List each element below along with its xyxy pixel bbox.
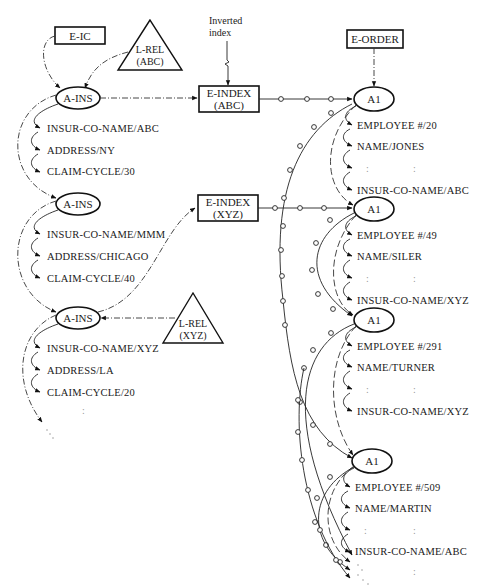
- emp-2-field-1: EMPLOYEE #/49: [357, 230, 437, 241]
- emp-1-ellipsis-a: :: [366, 163, 369, 174]
- emp-1-ellipsis-b: :: [413, 163, 416, 174]
- ins-3-field-3: CLAIM-CYCLE/20: [47, 387, 135, 398]
- l-rel-xyz-line1: L-REL: [179, 318, 207, 329]
- ins-record-3: A-INS INSUR-CO-NAME/XYZ ADDRESS/LA CLAIM…: [31, 307, 158, 416]
- entity-e-ic-label: E-IC: [69, 30, 90, 42]
- ins-node-2-label: A-INS: [63, 198, 92, 210]
- annotation-line1: Inverted: [209, 15, 242, 26]
- ins-2-field-3: CLAIM-CYCLE/40: [47, 273, 135, 284]
- employee-record-4: A1 EMPLOYEE #/509 NAME/MARTIN : : INSUR-…: [341, 449, 466, 577]
- emp-2-ellipsis-a: :: [366, 273, 369, 284]
- l-rel-abc-line2: (ABC): [136, 56, 163, 68]
- emp-3-ellipsis-a: :: [366, 384, 369, 395]
- l-rel-xyz-line2: (XYZ): [179, 330, 206, 342]
- employee-record-1: A1 EMPLOYEE #/20 NAME/JONES : : INSUR-CO…: [343, 87, 468, 196]
- e-order-label: E-ORDER: [351, 33, 399, 45]
- employee-node-2-label: A1: [367, 203, 380, 215]
- e-index-xyz-line1: E-INDEX: [206, 196, 251, 208]
- emp-3-field-2: NAME/TURNER: [357, 362, 435, 373]
- employee-node-4-label: A1: [365, 455, 378, 467]
- ins-record-1: A-INS INSUR-CO-NAME/ABC ADDRESS/NY CLAIM…: [31, 87, 158, 177]
- emp-1-field-2: NAME/JONES: [357, 141, 424, 152]
- employee-record-3: A1 EMPLOYEE #/291 NAME/TURNER : : INSUR-…: [343, 308, 468, 417]
- emp-1-field-1: EMPLOYEE #/20: [357, 120, 437, 131]
- ins-1-field-3: CLAIM-CYCLE/30: [47, 166, 135, 177]
- ins-1-field-1: INSUR-CO-NAME/ABC: [47, 123, 159, 134]
- l-rel-abc-line1: L-REL: [136, 44, 164, 55]
- e-index-abc-line2: (ABC): [214, 99, 244, 112]
- emp-4-ellipsis-a: :: [364, 525, 367, 536]
- ins-2-field-1: INSUR-CO-NAME/MMM: [47, 229, 166, 240]
- entity-e-order: E-ORDER: [347, 30, 403, 48]
- ins-3-field-1: INSUR-CO-NAME/XYZ: [47, 343, 159, 354]
- annotation-line2: index: [209, 27, 231, 38]
- employee-node-1-label: A1: [367, 93, 380, 105]
- e-index-abc-line1: E-INDEX: [207, 87, 252, 99]
- associative-structure-diagram: E-IC L-REL (ABC) A-INS INSUR-CO-NAME/ABC…: [0, 0, 484, 587]
- emp-4-field-1: EMPLOYEE #/509: [355, 482, 440, 493]
- ins-node-1-label: A-INS: [63, 92, 92, 104]
- emp-2-field-2: NAME/SILER: [357, 251, 422, 262]
- ins-1-field-2: ADDRESS/NY: [47, 145, 115, 156]
- employee-record-2: A1 EMPLOYEE #/49 NAME/SILER : : INSUR-CO…: [343, 197, 468, 306]
- ins-2-field-2: ADDRESS/CHICAGO: [47, 251, 149, 262]
- employee-node-3-label: A1: [367, 314, 380, 326]
- entity-e-ic: E-IC: [55, 27, 105, 44]
- ins-3-ellipsis: :: [82, 405, 85, 416]
- entity-e-index-abc: E-INDEX (ABC): [199, 86, 259, 112]
- emp-3-ellipsis-b: :: [413, 384, 416, 395]
- link-l-rel-abc: L-REL (ABC): [118, 20, 182, 70]
- emp-3-field-1: EMPLOYEE #/291: [357, 341, 442, 352]
- emp-2-ellipsis-b: :: [413, 273, 416, 284]
- entity-e-index-xyz: E-INDEX (XYZ): [198, 195, 258, 221]
- ins-node-3-label: A-INS: [63, 312, 92, 324]
- emp-1-field-3: INSUR-CO-NAME/ABC: [357, 185, 469, 196]
- emp-4-field-2: NAME/MARTIN: [355, 503, 432, 514]
- ins-record-2: A-INS INSUR-CO-NAME/MMM ADDRESS/CHICAGO …: [31, 193, 165, 284]
- inverted-index-annotation: Inverted index: [209, 15, 242, 85]
- ins-3-field-2: ADDRESS/LA: [47, 365, 114, 376]
- emp-2-field-3: INSUR-CO-NAME/XYZ: [357, 295, 469, 306]
- e-index-xyz-line2: (XYZ): [213, 208, 243, 221]
- emp-4-field-3: INSUR-CO-NAME/ABC: [355, 546, 467, 557]
- emp-4-ellipsis-b: :: [413, 525, 416, 536]
- emp-4-ellipsis-c: :: [413, 566, 416, 577]
- emp-3-field-3: INSUR-CO-NAME/XYZ: [357, 406, 469, 417]
